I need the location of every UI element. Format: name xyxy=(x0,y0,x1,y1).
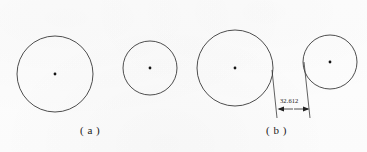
panel-a-group xyxy=(17,36,177,112)
panel-a-small-circle-center-dot xyxy=(149,67,152,70)
extension-line-left xyxy=(272,70,277,118)
dimension-arrowhead-left xyxy=(278,107,285,112)
panel-b-small-circle-center-dot xyxy=(329,61,332,64)
figure-container: 32.612 ( a ) ( b ) xyxy=(0,0,367,152)
panel-b-caption: ( b ) xyxy=(266,124,287,136)
gap-dimension-value: 32.612 xyxy=(280,97,298,104)
panel-a-large-circle-center-dot xyxy=(54,73,57,76)
panel-b-large-circle-center-dot xyxy=(234,67,237,70)
technical-drawing-canvas xyxy=(0,0,367,152)
panel-b-group xyxy=(197,30,357,118)
gap-dimension-line xyxy=(278,107,310,112)
clipped-bottom-caption xyxy=(0,146,367,152)
panel-a-caption: ( a ) xyxy=(80,124,100,136)
